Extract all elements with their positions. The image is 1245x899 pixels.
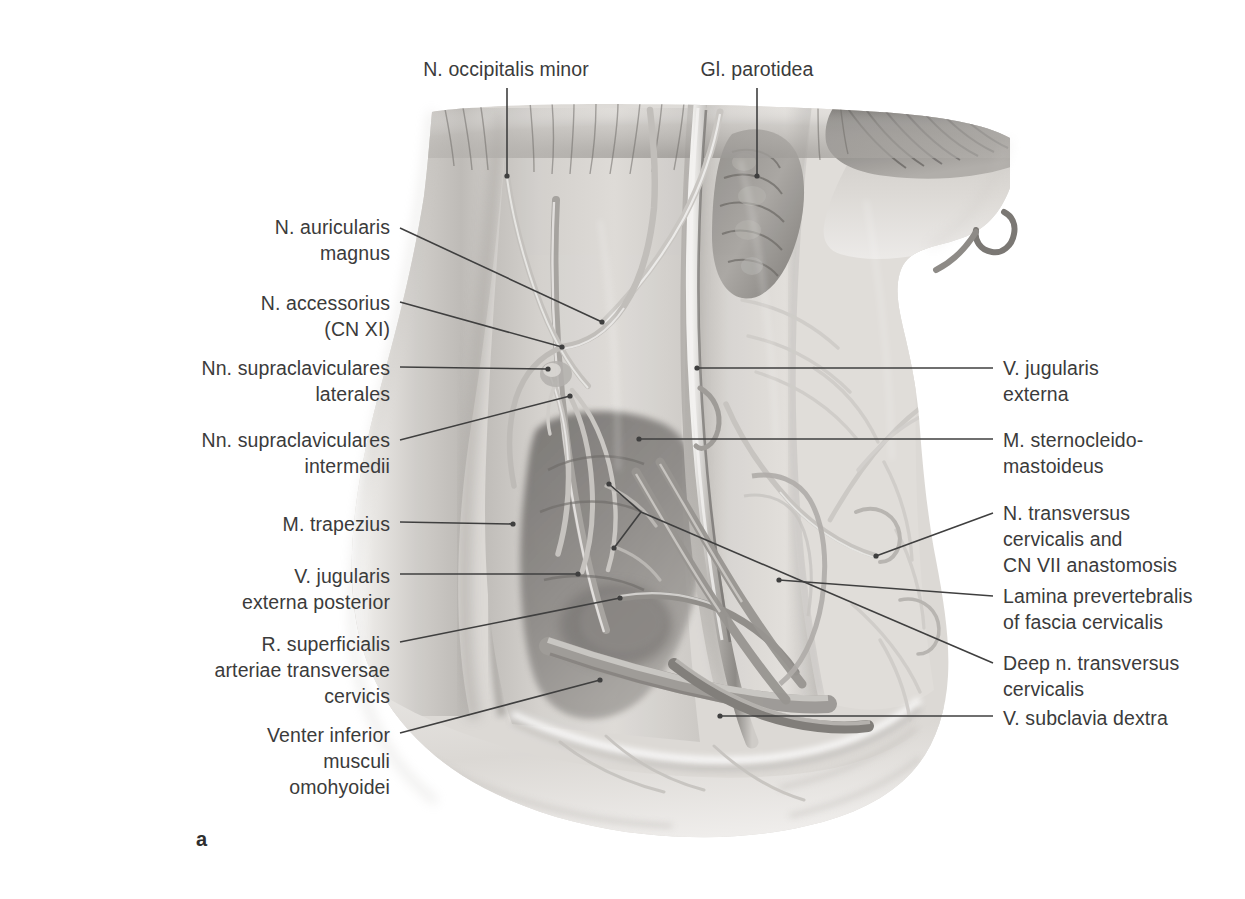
label-gl-parotidea: Gl. parotidea [652,56,862,82]
label-n-accessorius: N. accessorius (CN XI) [130,290,390,342]
label-r-superficialis-a-transversa-cervicis: R. superficialis arteriae transversae ce… [70,631,390,709]
label-nn-supraclaviculares-intermedii: Nn. supraclaviculares intermedii [90,427,390,479]
label-v-subclavia-dextra: V. subclavia dextra [1003,705,1245,731]
label-deep-n-transversus-cervicalis: Deep n. transversus cervicalis [1003,650,1245,702]
label-v-jugularis-externa: V. jugularis externa [1003,355,1243,407]
specimen-body [330,90,1040,860]
label-n-auricularis-magnus: N. auricularis magnus [130,214,390,266]
label-n-transversus-cervicalis-cn-vii: N. transversus cervicalis and CN VII ana… [1003,500,1245,578]
label-m-trapezius: M. trapezius [90,511,390,537]
label-lamina-prevertebralis: Lamina prevertebralis of fascia cervical… [1003,583,1245,635]
label-nn-supraclaviculares-laterales: Nn. supraclaviculares laterales [90,355,390,407]
anatomy-plate: N. occipitalis minor Gl. parotidea N. au… [0,0,1245,899]
label-n-occipitalis-minor: N. occipitalis minor [376,56,636,82]
label-venter-inferior-musculi-omohyoidei: Venter inferior musculi omohyoidei [70,722,390,800]
figure-letter: a [196,828,207,851]
label-v-jugularis-externa-posterior: V. jugularis externa posterior [90,563,390,615]
label-m-sternocleidomastoideus: M. sternocleido- mastoideus [1003,427,1243,479]
